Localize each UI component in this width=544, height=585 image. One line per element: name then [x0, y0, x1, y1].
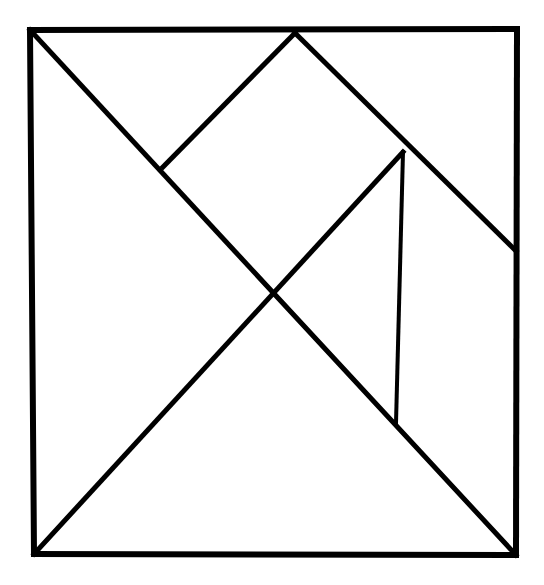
outer-border-bottom [34, 554, 516, 555]
outer-border-left [30, 30, 34, 554]
tangram-canvas: Tangram square dissection [0, 0, 544, 585]
outer-border-right [516, 29, 517, 555]
outer-border-top [30, 29, 517, 30]
tangram-figure: Tangram square dissection [0, 0, 544, 585]
